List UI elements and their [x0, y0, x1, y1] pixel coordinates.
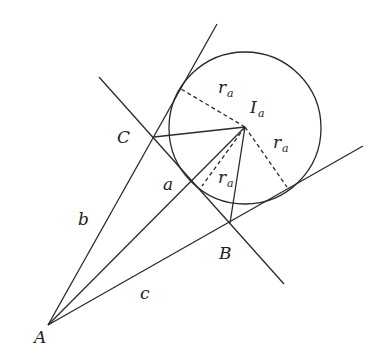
- excircle-diagram: A B C I a a b c r a r a r a: [0, 0, 385, 359]
- radius-to-ac: [181, 89, 245, 127]
- segment-c-ia: [154, 127, 245, 137]
- label-side-b: b: [78, 209, 89, 229]
- label-side-c: c: [140, 283, 150, 303]
- label-ra-right-main: r: [273, 132, 282, 152]
- label-a-vertex: A: [32, 327, 46, 347]
- label-ia-main: I: [249, 97, 257, 117]
- line-ab-extended: [48, 146, 363, 325]
- label-ra-top-main: r: [218, 77, 227, 97]
- label-ra-top-sub: a: [227, 87, 234, 100]
- segment-b-ia: [230, 127, 245, 223]
- label-ra-right-sub: a: [282, 142, 289, 155]
- label-side-a: a: [163, 174, 173, 194]
- line-ac-extended: [48, 24, 217, 325]
- label-ra-mid-sub: a: [227, 177, 234, 190]
- label-c-vertex: C: [117, 127, 130, 147]
- label-ra-mid-main: r: [218, 167, 227, 187]
- label-b-vertex: B: [218, 243, 232, 263]
- label-ia-sub: a: [258, 107, 265, 120]
